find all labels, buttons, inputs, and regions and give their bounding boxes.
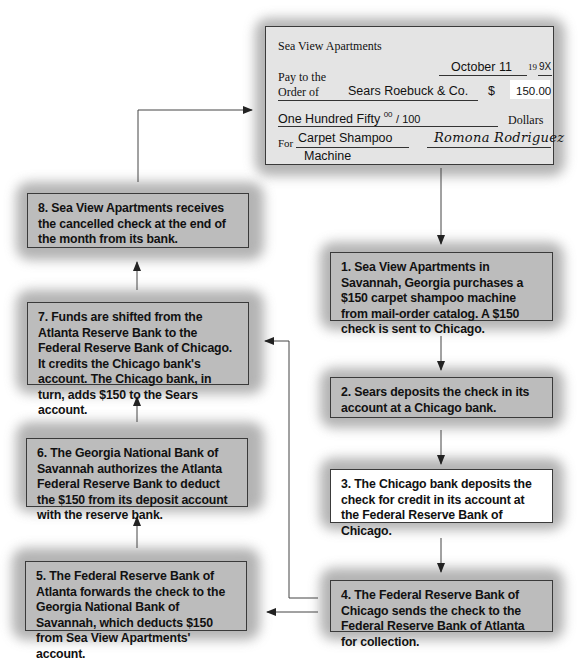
check: Sea View Apartments October 11 19 9X Pay… xyxy=(265,26,554,165)
amount-in-words: One Hundred Fifty 00 / 100 xyxy=(278,110,420,126)
check-payer: Sea View Apartments xyxy=(278,39,382,54)
dollars-label: Dollars xyxy=(508,113,543,128)
memo-line-2: Machine xyxy=(304,149,351,163)
step-7-text: 7. Funds are shifted from the Atlanta Re… xyxy=(38,310,232,417)
step-5-box: 5. The Federal Reserve Bank of Atlanta f… xyxy=(25,561,247,631)
step-5-text: 5. The Federal Reserve Bank of Atlanta f… xyxy=(36,569,225,660)
check-year: 9X xyxy=(539,61,551,72)
signature: Romona Rodriguez xyxy=(434,130,564,145)
for-label: For xyxy=(278,137,293,149)
order-of-label: Order of xyxy=(278,85,319,100)
step-2-box: 2. Sears deposits the check in its accou… xyxy=(330,377,553,418)
step-6-box: 6. The Georgia National Bank of Savannah… xyxy=(26,438,248,507)
step-8-box: 8. Sea View Apartments receives the canc… xyxy=(27,193,249,248)
step-1-box: 1. Sea View Apartments in Savannah, Geor… xyxy=(330,252,553,321)
step-2-text: 2. Sears deposits the check in its accou… xyxy=(341,385,529,415)
check-date: October 11 xyxy=(451,60,512,74)
pay-to-label: Pay to the xyxy=(278,70,326,85)
step-4-box: 4. The Federal Reserve Bank of Chicago s… xyxy=(330,580,553,632)
step-8-text: 8. Sea View Apartments receives the canc… xyxy=(38,201,226,246)
step-7-box: 7. Funds are shifted from the Atlanta Re… xyxy=(27,302,249,385)
check-amount: 150.00 xyxy=(516,85,551,97)
step-3-box: 3. The Chicago bank deposits the check f… xyxy=(330,469,553,523)
currency-symbol: $ xyxy=(488,84,495,98)
check-payee: Sears Roebuck & Co. xyxy=(348,84,468,98)
check-year-prefix: 19 xyxy=(528,62,537,72)
memo-line-1: Carpet Shampoo xyxy=(298,131,393,145)
